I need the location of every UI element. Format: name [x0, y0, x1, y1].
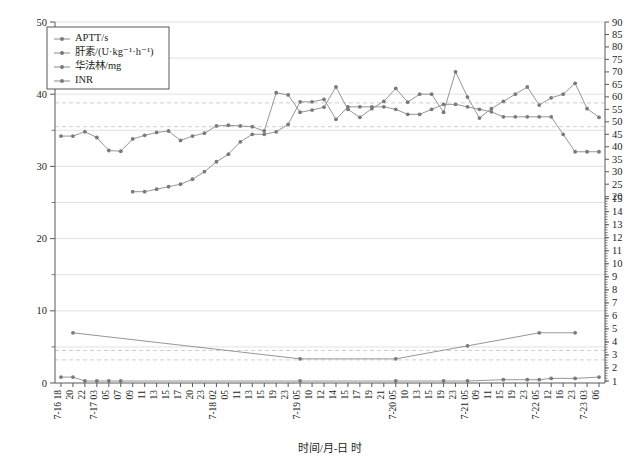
- data-point[interactable]: [71, 375, 75, 379]
- data-point[interactable]: [286, 93, 290, 97]
- data-point[interactable]: [358, 105, 362, 109]
- data-point[interactable]: [561, 132, 565, 136]
- data-point[interactable]: [525, 378, 529, 382]
- data-point[interactable]: [71, 331, 75, 335]
- data-point[interactable]: [59, 134, 63, 138]
- data-point[interactable]: [262, 129, 266, 133]
- data-point[interactable]: [250, 125, 254, 129]
- legend-label[interactable]: 华法林/mg: [75, 59, 122, 71]
- data-point[interactable]: [549, 115, 553, 119]
- data-point[interactable]: [501, 378, 505, 382]
- data-point[interactable]: [322, 105, 326, 109]
- data-point[interactable]: [191, 177, 195, 181]
- data-point[interactable]: [191, 134, 195, 138]
- data-point[interactable]: [513, 92, 517, 96]
- data-point[interactable]: [525, 85, 529, 89]
- data-point[interactable]: [490, 110, 494, 114]
- data-point[interactable]: [107, 379, 111, 383]
- data-point[interactable]: [322, 97, 326, 101]
- data-point[interactable]: [466, 105, 470, 109]
- data-point[interactable]: [334, 117, 338, 121]
- data-point[interactable]: [418, 92, 422, 96]
- data-point[interactable]: [226, 152, 230, 156]
- data-point[interactable]: [394, 107, 398, 111]
- data-point[interactable]: [298, 110, 302, 114]
- data-point[interactable]: [513, 115, 517, 119]
- data-point[interactable]: [95, 379, 99, 383]
- legend-label[interactable]: INR: [75, 74, 93, 85]
- data-point[interactable]: [298, 100, 302, 104]
- data-point[interactable]: [466, 344, 470, 348]
- data-point[interactable]: [537, 331, 541, 335]
- data-point[interactable]: [573, 377, 577, 381]
- data-point[interactable]: [394, 357, 398, 361]
- data-point[interactable]: [95, 136, 99, 140]
- data-point[interactable]: [525, 115, 529, 119]
- data-point[interactable]: [454, 102, 458, 106]
- data-point[interactable]: [286, 122, 290, 126]
- data-point[interactable]: [537, 115, 541, 119]
- data-point[interactable]: [155, 187, 159, 191]
- data-point[interactable]: [167, 129, 171, 133]
- data-point[interactable]: [238, 124, 242, 128]
- data-point[interactable]: [310, 108, 314, 112]
- data-point[interactable]: [83, 379, 87, 383]
- data-point[interactable]: [274, 130, 278, 134]
- data-point[interactable]: [442, 102, 446, 106]
- legend-label[interactable]: 肝素/(U·kg⁻¹·h⁻¹): [75, 45, 154, 58]
- data-point[interactable]: [537, 378, 541, 382]
- data-point[interactable]: [573, 331, 577, 335]
- data-point[interactable]: [310, 100, 314, 104]
- data-point[interactable]: [537, 103, 541, 107]
- data-point[interactable]: [215, 124, 219, 128]
- data-point[interactable]: [119, 149, 123, 153]
- data-point[interactable]: [274, 91, 278, 95]
- data-point[interactable]: [597, 115, 601, 119]
- data-point[interactable]: [298, 357, 302, 361]
- data-point[interactable]: [478, 107, 482, 111]
- data-point[interactable]: [549, 377, 553, 381]
- data-point[interactable]: [143, 133, 147, 137]
- data-point[interactable]: [597, 375, 601, 379]
- data-point[interactable]: [131, 137, 135, 141]
- data-point[interactable]: [107, 149, 111, 153]
- data-point[interactable]: [143, 190, 147, 194]
- data-point[interactable]: [203, 170, 207, 174]
- legend-label[interactable]: APTT/s: [75, 32, 108, 43]
- data-point[interactable]: [394, 379, 398, 383]
- data-point[interactable]: [573, 81, 577, 85]
- data-point[interactable]: [59, 375, 63, 379]
- data-point[interactable]: [585, 150, 589, 154]
- data-point[interactable]: [238, 140, 242, 144]
- data-point[interactable]: [298, 379, 302, 383]
- data-point[interactable]: [454, 70, 458, 74]
- data-point[interactable]: [585, 107, 589, 111]
- data-point[interactable]: [442, 110, 446, 114]
- data-point[interactable]: [179, 182, 183, 186]
- data-point[interactable]: [370, 105, 374, 109]
- data-point[interactable]: [250, 132, 254, 136]
- data-point[interactable]: [262, 132, 266, 136]
- data-point[interactable]: [179, 139, 183, 143]
- data-point[interactable]: [155, 131, 159, 135]
- data-point[interactable]: [346, 105, 350, 109]
- data-point[interactable]: [406, 112, 410, 116]
- data-point[interactable]: [549, 96, 553, 100]
- data-point[interactable]: [466, 379, 470, 383]
- data-point[interactable]: [83, 130, 87, 134]
- data-point[interactable]: [382, 105, 386, 109]
- data-point[interactable]: [430, 92, 434, 96]
- data-point[interactable]: [418, 112, 422, 116]
- data-point[interactable]: [119, 379, 123, 383]
- data-point[interactable]: [382, 100, 386, 104]
- data-point[interactable]: [334, 85, 338, 89]
- data-point[interactable]: [561, 92, 565, 96]
- data-point[interactable]: [478, 116, 482, 120]
- data-point[interactable]: [501, 100, 505, 104]
- data-point[interactable]: [71, 134, 75, 138]
- data-point[interactable]: [167, 185, 171, 189]
- data-point[interactable]: [501, 115, 505, 119]
- data-point[interactable]: [358, 115, 362, 119]
- data-point[interactable]: [203, 131, 207, 135]
- data-point[interactable]: [406, 100, 410, 104]
